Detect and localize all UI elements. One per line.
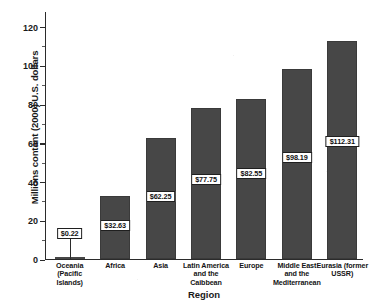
plot-area: 020406080100120 $0.22$32.63$62.25$77.75$… (45, 12, 363, 260)
y-tick-label: 60 (28, 139, 38, 149)
data-label: $77.75 (191, 174, 221, 185)
y-tick-label: 20 (28, 216, 38, 226)
y-tick-label: 100 (23, 61, 38, 71)
bar[interactable] (327, 41, 357, 259)
category-label-line: Caibbean (175, 279, 236, 287)
data-label: $98.19 (282, 152, 312, 163)
y-axis-title: Millions contant (2000) U.S. dollars (29, 28, 40, 228)
data-label: $62.25 (146, 191, 176, 202)
category-label-line: Islands) (39, 279, 100, 287)
data-label: $82.55 (237, 168, 267, 179)
category-label-line: Mediterranean (266, 279, 327, 287)
y-tick-label: 120 (23, 23, 38, 33)
leader-line (70, 239, 71, 260)
data-label: $0.22 (57, 228, 83, 239)
data-label: $112.31 (326, 136, 359, 147)
y-tick-label: 40 (28, 178, 38, 188)
bar[interactable] (236, 99, 266, 259)
x-axis-category-label: Eurasia (formerUSSR) (312, 262, 371, 279)
x-axis-title: Region (45, 289, 363, 300)
data-label: $32.63 (100, 220, 130, 231)
category-label-line: USSR) (312, 270, 371, 278)
bar-chart: Millions contant (2000) U.S. dollars 020… (0, 0, 371, 307)
bar[interactable] (282, 69, 312, 259)
bars-layer (45, 12, 363, 260)
y-tick-label: 0 (33, 255, 38, 265)
y-tick-label: 80 (28, 100, 38, 110)
